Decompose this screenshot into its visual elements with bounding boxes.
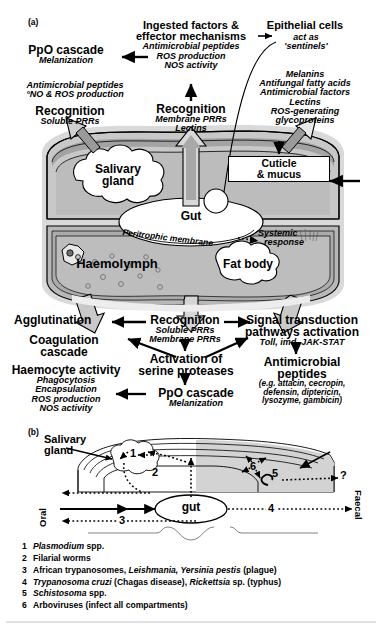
- legend-number: 1: [22, 541, 33, 553]
- legend-text-part: spp.: [87, 588, 107, 598]
- panel-b-body: [78, 438, 334, 492]
- legend-text-part: Plasmodium: [33, 541, 84, 551]
- ppo-bottom-sub: Melanization: [158, 399, 233, 408]
- legend-text-part: (Chagas disease),: [112, 577, 190, 587]
- legend-text-part: Leishmania, Yersinia pestis: [129, 565, 241, 575]
- route-number-2: 2: [152, 467, 158, 478]
- salivary-gland-label: Salivary gland: [95, 163, 141, 187]
- legend-text-part: Trypanosoma cruzi: [33, 577, 112, 587]
- amp-examples-3: lysozyme, gambicin): [259, 397, 345, 405]
- legend-number: 5: [22, 588, 33, 600]
- legend-text-part: sp. (typhus): [230, 577, 281, 587]
- legend-text-part: Rickettsia: [190, 577, 231, 587]
- recognition-left-block: Recognition Soluble PRRs: [35, 105, 104, 126]
- recognition-bottom-item-1: Membrane PRRs: [149, 335, 221, 344]
- recognition-left-sub: Soluble PRRs: [35, 117, 104, 126]
- haemocyte-item-3: NOS activity: [12, 404, 121, 413]
- haemocyte-activity-block: Haemocyte activity Phagocytosis Encapsul…: [12, 364, 121, 413]
- panel-b-gut-label: gut: [182, 501, 201, 513]
- epithelial-sub-2: 'sentinels': [284, 42, 327, 51]
- legend-number: 2: [22, 553, 33, 565]
- agglutination-label: Agglutination: [14, 314, 91, 326]
- question-mark-label: ?: [340, 470, 347, 481]
- legend-text-part: (plague): [241, 565, 277, 575]
- recognition-center-item-1: Lectins: [155, 124, 227, 133]
- legend-item: 4Trypanosoma cruzi (Chagas disease), Ric…: [22, 577, 372, 589]
- ppo-cascade-sub-top: Melanization: [28, 56, 103, 65]
- fat-body-label: Fat body: [223, 258, 273, 270]
- recognition-center-block: Recognition Membrane PRRs Lectins: [155, 103, 227, 134]
- gut-label: Gut: [181, 210, 202, 222]
- epithelial-effectors-block: Melanins Antifungal fatty acids Antimicr…: [259, 70, 351, 125]
- route-number-3: 3: [117, 515, 127, 526]
- legend-item: 6Arboviruses (infect all compartments): [22, 600, 372, 612]
- amp-soluble-block: Antimicrobial peptides °NO & ROS product…: [26, 81, 124, 99]
- oral-label: Oral: [38, 508, 48, 527]
- signal-sub: Toll, imd, JAK-STAT: [245, 338, 359, 347]
- pathogen-legend: 1Plasmodium spp.2Filarial worms3African …: [22, 541, 372, 612]
- panel-b-salivary-gland-label: Salivary gland: [44, 434, 86, 456]
- ingested-item-2: NOS activity: [136, 61, 246, 70]
- legend-text-part: Filarial worms: [33, 553, 91, 563]
- epithelial-cells-title: Epithelial cells: [267, 20, 343, 31]
- panel-b-salivary-line-2: gland: [44, 445, 86, 456]
- cuticle-mucus-box: Cuticle & mucus: [228, 156, 330, 182]
- panel-a-label: (a): [28, 18, 38, 27]
- haemolymph-label: Haemolymph: [76, 257, 158, 270]
- legend-text-part: Arboviruses (infect all compartments): [33, 600, 188, 610]
- coagulation-block: Coagulation cascade: [29, 334, 98, 358]
- legend-number: 4: [22, 577, 33, 589]
- ppo-cascade-block-top: PpO cascade Melanization: [28, 44, 103, 65]
- route-number-1: 1: [130, 448, 136, 459]
- epithelial-cells-title-text: Epithelial cells: [267, 20, 343, 31]
- systemic-response-line-2: response: [264, 238, 304, 247]
- ppo-cascade-bottom-block: PpO cascade Melanization: [158, 387, 233, 408]
- activation-line-2: serine proteases: [138, 365, 233, 377]
- amp-bottom-block: Antimicrobial peptides (e.g. attacin, ce…: [259, 356, 345, 406]
- figure-root: (a) Ingested factors & effector mechanis…: [0, 0, 382, 631]
- serine-proteases-block: Activation of serine proteases: [138, 353, 233, 377]
- epi-item-5: glycoproteins: [259, 116, 351, 125]
- cuticle-line-2: & mucus: [232, 169, 326, 180]
- route-number-5: 5: [272, 468, 278, 479]
- legend-item: 1Plasmodium spp.: [22, 541, 372, 553]
- route-number-4: 4: [266, 503, 276, 514]
- legend-item: 5Schistosoma spp.: [22, 588, 372, 600]
- legend-number: 6: [22, 600, 33, 612]
- signal-transduction-block: Signal transduction pathways activation …: [245, 314, 359, 348]
- legend-text-part: African trypanosomes,: [33, 565, 129, 575]
- epithelium-callout-circle: [204, 189, 228, 213]
- systemic-response-label: Systemic response: [258, 229, 304, 247]
- coagulation-line-2: cascade: [29, 346, 98, 358]
- ingested-factors-block: Ingested factors & effector mechanisms A…: [136, 20, 246, 70]
- route-number-6: 6: [250, 461, 256, 472]
- salivary-gland-line-2: gland: [95, 175, 141, 187]
- legend-text-part: spp.: [84, 541, 104, 551]
- panel-b-label: (b): [28, 428, 39, 437]
- amp-line-2: °NO & ROS production: [26, 90, 124, 99]
- legend-item: 2Filarial worms: [22, 553, 372, 565]
- legend-number: 3: [22, 565, 33, 577]
- recognition-bottom-block: Recognition Soluble PRRs Membrane PRRs: [149, 314, 221, 345]
- legend-item: 3African trypanosomes, Leishmania, Yersi…: [22, 565, 372, 577]
- epithelial-actas-block: act as 'sentinels': [284, 33, 327, 51]
- legend-text-part: Schistosoma: [33, 588, 87, 598]
- faecal-label: Faecal: [353, 490, 363, 520]
